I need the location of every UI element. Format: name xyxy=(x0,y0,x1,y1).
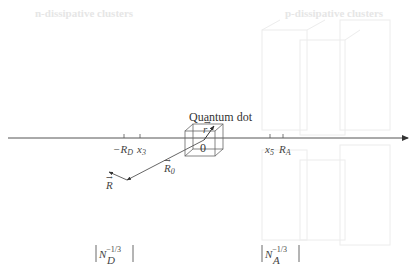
acceptor-density-label: N−1/3 A xyxy=(262,245,299,266)
header-n-dissipative: n-dissipative clusters xyxy=(35,7,134,19)
R0-arrow-accent: → xyxy=(164,156,171,165)
diagram-canvas: n-dissipative clusters p-dissipative clu… xyxy=(0,0,410,270)
tick-RA: RA xyxy=(278,143,291,157)
origin-label: 0 xyxy=(200,141,206,155)
tick-minus-RD: −RD xyxy=(113,143,133,157)
tick-x5: x5 xyxy=(264,143,274,157)
tick-x3: x3 xyxy=(136,143,146,157)
svg-text:D: D xyxy=(106,254,115,266)
r-vector-arrow-accent: → xyxy=(204,118,211,127)
quantum-dot-label: Quantum dot xyxy=(189,110,253,124)
svg-text:A: A xyxy=(272,254,280,266)
R-arrow-accent: → xyxy=(106,173,113,182)
header-p-dissipative: p-dissipative clusters xyxy=(285,7,384,19)
p-cluster-outlines xyxy=(262,20,390,245)
donor-density-label: N−1/3 D xyxy=(96,245,133,266)
